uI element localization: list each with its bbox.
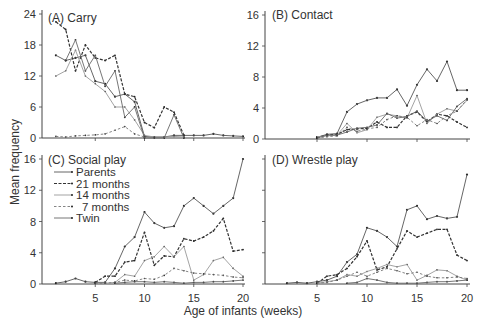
legend-item-parents: Parents bbox=[54, 166, 116, 178]
y-tick-label: 16 bbox=[247, 9, 259, 21]
y-tick-label: 18 bbox=[24, 39, 36, 51]
series-twin bbox=[346, 278, 468, 285]
y-tick-label: 8 bbox=[30, 216, 36, 228]
series-21-months bbox=[316, 228, 468, 284]
series-parents bbox=[316, 60, 468, 138]
panel-contact: 0481216(B) Contact bbox=[247, 8, 470, 145]
legend-label: 14 months bbox=[76, 189, 130, 201]
series-7-months bbox=[55, 126, 145, 138]
y-tick-label: 12 bbox=[24, 184, 36, 196]
series-twin bbox=[65, 39, 185, 139]
panel-carry: 06121824(A) Carry bbox=[24, 8, 245, 144]
y-tick-label: 0 bbox=[30, 278, 36, 290]
legend-label: Parents bbox=[76, 166, 116, 178]
x-tick-label: 5 bbox=[314, 292, 320, 304]
x-tick-label: 20 bbox=[461, 292, 473, 304]
x-tick-label: 5 bbox=[92, 292, 98, 304]
panel-social-play: 04812165101520(C) Social play bbox=[24, 153, 249, 304]
x-tick-label: 15 bbox=[188, 292, 200, 304]
x-tick-label: 15 bbox=[411, 292, 423, 304]
legend: Parents21 months14 months7 monthsTwin bbox=[54, 166, 130, 224]
panel-wrestle-play: 5101520(D) Wrestle play bbox=[262, 153, 473, 304]
y-tick-label: 4 bbox=[30, 247, 36, 259]
y-tick-label: 12 bbox=[247, 40, 259, 52]
x-axis-label: Age of infants (weeks) bbox=[184, 304, 303, 318]
y-axis-label: Mean frequency bbox=[8, 119, 22, 205]
panel-title: (B) Contact bbox=[272, 8, 333, 22]
y-tick-label: 6 bbox=[30, 101, 36, 113]
y-tick-label: 16 bbox=[24, 153, 36, 165]
legend-item-14-months: 14 months bbox=[54, 189, 130, 201]
legend-item-21-months: 21 months bbox=[54, 178, 130, 190]
y-tick-label: 24 bbox=[24, 8, 36, 20]
panel-title: (C) Social play bbox=[48, 153, 126, 167]
panel-title: (D) Wrestle play bbox=[272, 153, 358, 167]
legend-item-twin: Twin bbox=[54, 212, 100, 224]
legend-item-7-months: 7 months bbox=[54, 201, 130, 213]
y-tick-label: 0 bbox=[30, 132, 36, 144]
x-tick-label: 20 bbox=[237, 292, 249, 304]
y-tick-label: 8 bbox=[253, 71, 259, 83]
y-tick-label: 12 bbox=[24, 70, 36, 82]
y-tick-label: 0 bbox=[253, 133, 259, 145]
legend-label: Twin bbox=[76, 212, 100, 224]
series-21-months bbox=[55, 21, 185, 136]
legend-label: 7 months bbox=[82, 201, 130, 213]
x-tick-label: 10 bbox=[138, 292, 150, 304]
legend-label: 21 months bbox=[76, 178, 130, 190]
x-tick-label: 10 bbox=[361, 292, 373, 304]
figure: Mean frequency Age of infants (weeks) 06… bbox=[0, 0, 481, 323]
panel-title: (A) Carry bbox=[48, 11, 97, 25]
series-twin bbox=[114, 279, 244, 284]
y-tick-label: 4 bbox=[253, 102, 259, 114]
